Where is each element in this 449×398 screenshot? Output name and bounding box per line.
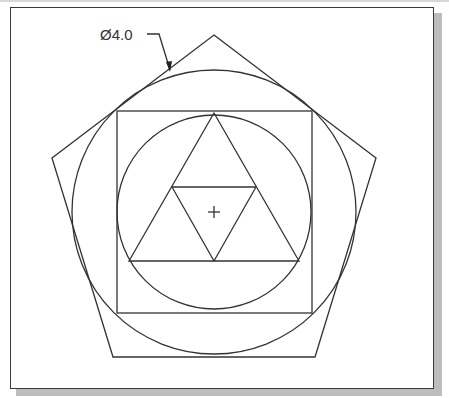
diameter-dimension-label: Ø4.0 [100,26,133,43]
inner-triangle [172,187,256,261]
center-mark-icon [208,206,220,218]
geometric-drawing: Ø4.0 [0,0,449,398]
dimension-leader [147,34,170,70]
